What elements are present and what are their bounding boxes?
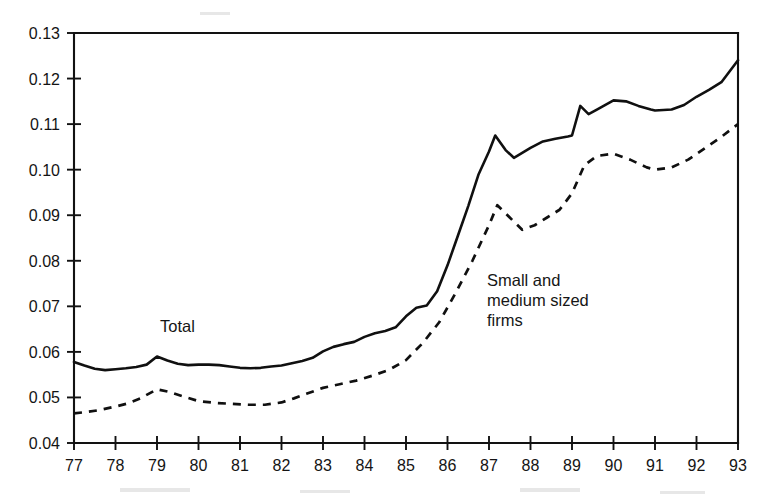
x-tick-label-77: 77 (65, 457, 83, 474)
y-tick-label-0.08: 0.08 (29, 253, 60, 270)
y-tick-label-0.13: 0.13 (29, 25, 60, 42)
x-tick-label-83: 83 (314, 457, 332, 474)
small-medium-annotation-line-3: firms (487, 311, 523, 329)
x-tick-label-80: 80 (190, 457, 208, 474)
x-tick-label-91: 91 (646, 457, 664, 474)
x-tick-label-82: 82 (273, 457, 291, 474)
x-tick-label-79: 79 (148, 457, 166, 474)
y-tick-label-0.04: 0.04 (29, 435, 60, 452)
x-tick-label-86: 86 (439, 457, 457, 474)
x-tick-label-90: 90 (605, 457, 623, 474)
x-tick-label-85: 85 (397, 457, 415, 474)
total-annotation: Total (160, 317, 195, 335)
y-tick-label-0.10: 0.10 (29, 162, 60, 179)
x-tick-label-93: 93 (729, 457, 747, 474)
x-tick-label-84: 84 (356, 457, 374, 474)
small-medium-annotation-line-2: medium sized (487, 291, 589, 309)
x-tick-label-88: 88 (522, 457, 540, 474)
x-tick-label-89: 89 (563, 457, 581, 474)
x-tick-label-87: 87 (480, 457, 498, 474)
line-chart: 0.040.050.060.070.080.090.100.110.120.13… (0, 0, 765, 499)
y-tick-label-0.12: 0.12 (29, 71, 60, 88)
small-medium-annotation-line-1: Small and (487, 271, 560, 289)
y-tick-label-0.09: 0.09 (29, 207, 60, 224)
chart-container: 0.040.050.060.070.080.090.100.110.120.13… (0, 0, 765, 499)
x-tick-label-78: 78 (107, 457, 125, 474)
y-tick-label-0.07: 0.07 (29, 298, 60, 315)
chart-background (0, 0, 765, 499)
x-tick-label-81: 81 (231, 457, 249, 474)
y-tick-label-0.06: 0.06 (29, 344, 60, 361)
y-tick-label-0.05: 0.05 (29, 389, 60, 406)
y-tick-label-0.11: 0.11 (30, 116, 60, 133)
x-tick-label-92: 92 (688, 457, 706, 474)
